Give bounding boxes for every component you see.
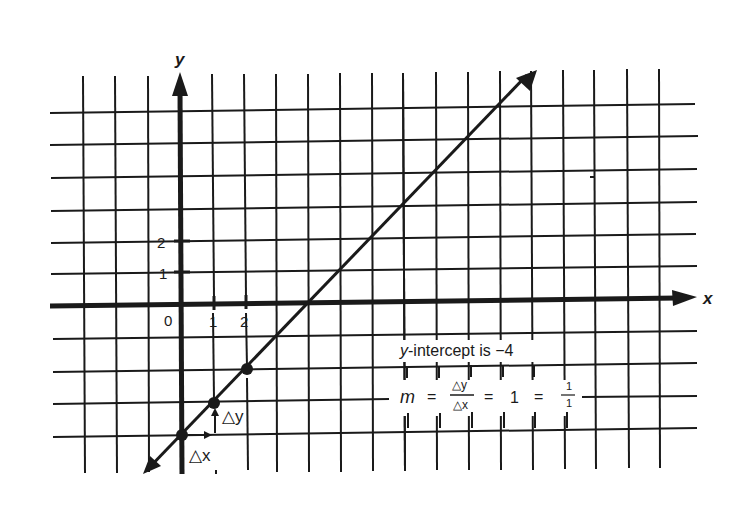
y-axis-arrow-icon: [172, 72, 188, 96]
delta-y-arrow-icon: [211, 408, 219, 416]
x-axis: x: [50, 289, 714, 308]
x-tick-label-1: 1: [209, 313, 217, 330]
y-axis-label: y: [174, 50, 186, 69]
point-1-neg3: [208, 397, 220, 409]
x-axis-label: x: [702, 289, 714, 308]
frac-delta-y: △y: [452, 378, 467, 392]
point-2-neg2: [241, 363, 253, 375]
equals-2: =: [484, 388, 493, 405]
y-tick-label-1: 1: [159, 265, 167, 282]
equals-1: =: [427, 388, 436, 405]
grid: [50, 69, 698, 473]
slope-m: m: [400, 387, 415, 407]
y-axis: y: [172, 50, 188, 474]
frac-numerator: 1: [566, 380, 572, 392]
delta-x-marker: △x: [189, 446, 211, 465]
delta-x-arrow-icon: [204, 431, 212, 439]
stray-mark: [590, 176, 594, 178]
y-intercept-text: -intercept is −4: [408, 342, 513, 359]
x-axis-arrow-icon: [672, 290, 697, 306]
y-tick-label-2: 2: [157, 234, 165, 251]
frac-delta-x: △x: [453, 398, 468, 412]
coordinate-graph: x y 2 1 0 1 2 △y △x: [0, 0, 755, 510]
line-arrow-top-icon: [516, 70, 537, 91]
origin-label: 0: [164, 312, 172, 329]
tick-marks: [174, 241, 246, 310]
frac-denominator: 1: [566, 397, 572, 409]
point-0-neg4: [176, 429, 188, 441]
y-intercept-annotation: y-intercept is −4: [399, 342, 513, 359]
slope-value: 1: [510, 389, 519, 406]
x-tick-label-2: 2: [240, 313, 248, 330]
delta-y-marker: △y: [222, 407, 244, 426]
equals-3: =: [534, 388, 543, 405]
